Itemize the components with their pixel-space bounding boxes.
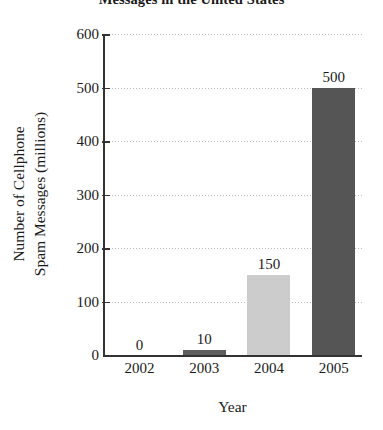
y-axis-tick-label: 0 (57, 348, 99, 363)
x-axis-tick-label: 2004 (254, 360, 284, 377)
y-axis-tick-label: 600 (57, 27, 99, 42)
y-axis-tick-labels: 0100200300400500600 (55, 0, 99, 430)
gridline (103, 34, 362, 35)
bar-value-label: 10 (197, 331, 212, 347)
x-axis-title: Year (103, 398, 362, 416)
y-axis-tick-label: 300 (57, 187, 99, 202)
y-axis-line (103, 34, 105, 355)
plot-area: 010150500 (103, 34, 362, 355)
y-axis-tick-label: 500 (57, 80, 99, 95)
bar-chart: Messages in the United States Number of … (0, 0, 383, 430)
bar-value-label: 150 (258, 256, 281, 272)
y-axis-tick-label: 400 (57, 134, 99, 149)
x-axis-tick-label: 2002 (124, 360, 154, 377)
bar-value-label: 0 (136, 337, 144, 353)
x-axis-tick-labels: 2002200320042005 (103, 360, 362, 380)
y-axis-title-line-1: Number of Cellphone (8, 112, 29, 276)
y-axis-tick-label: 200 (57, 241, 99, 256)
y-axis-tick-label: 100 (57, 294, 99, 309)
bar: 150 (247, 275, 290, 355)
bar-value-label: 500 (322, 69, 345, 85)
x-axis-tick-label: 2003 (189, 360, 219, 377)
y-axis-title: Number of Cellphone Spam Messages (milli… (6, 38, 52, 350)
x-axis-line (103, 355, 362, 357)
x-axis-tick-label: 2005 (319, 360, 349, 377)
bar: 500 (312, 88, 355, 356)
y-axis-title-line-2: Spam Messages (millions) (29, 112, 50, 276)
